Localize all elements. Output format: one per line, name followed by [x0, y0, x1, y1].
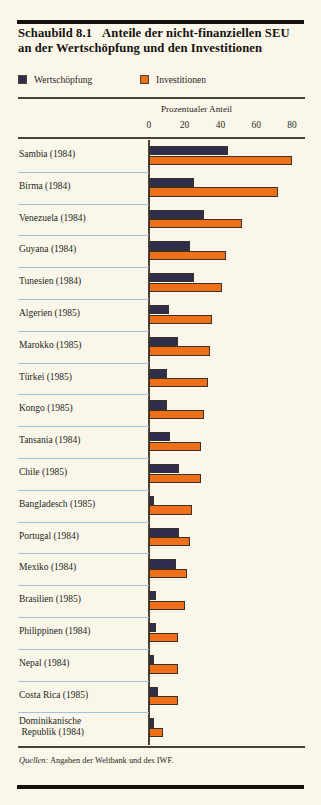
- figure-number: Schaubild 8.1: [18, 26, 92, 40]
- row-bars: [149, 687, 314, 708]
- row-bars: [149, 718, 314, 739]
- row-separator: [18, 553, 149, 554]
- legend-label-investitionen: Investitionen: [156, 74, 206, 85]
- row-label: Philippinen (1984): [19, 626, 145, 637]
- bar-investitionen: [149, 219, 242, 228]
- chart-row: Chile (1985): [0, 458, 321, 490]
- row-bars: [149, 369, 314, 390]
- row-separator: [18, 490, 149, 491]
- row-label: Dominikanische Republik (1984): [19, 716, 145, 738]
- bar-wertschoepfung: [149, 273, 194, 282]
- axis-tick-0: 0: [146, 120, 151, 130]
- row-separator: [18, 299, 149, 300]
- bar-wertschoepfung: [149, 210, 204, 219]
- row-bars: [149, 241, 314, 262]
- row-bars: [149, 432, 314, 453]
- bar-wertschoepfung: [149, 559, 176, 568]
- row-bars: [149, 559, 314, 580]
- row-separator: [18, 712, 149, 713]
- bar-investitionen: [149, 283, 222, 292]
- row-separator: [18, 267, 149, 268]
- bar-investitionen: [149, 442, 201, 451]
- footer-rule: [18, 746, 305, 748]
- chart-row: Sambia (1984): [0, 140, 321, 172]
- bar-wertschoepfung: [149, 718, 154, 727]
- axis-caption-text: Prozentualer Anteil: [161, 104, 232, 114]
- row-label: Türkei (1985): [19, 372, 145, 383]
- page-title: Schaubild 8.1Anteile der nicht-finanziel…: [18, 26, 305, 57]
- bar-wertschoepfung: [149, 241, 190, 250]
- row-separator: [18, 394, 149, 395]
- row-bars: [149, 400, 314, 421]
- chart-row: Portugal (1984): [0, 522, 321, 554]
- row-separator: [18, 617, 149, 618]
- bar-wertschoepfung: [149, 432, 170, 441]
- bar-investitionen: [149, 728, 163, 737]
- bottom-rule: [17, 785, 304, 789]
- bar-wertschoepfung: [149, 496, 154, 505]
- chart-row: Venezuela (1984): [0, 204, 321, 236]
- source-label: Quellen:: [19, 756, 48, 765]
- row-bars: [149, 146, 314, 167]
- bar-investitionen: [149, 474, 201, 483]
- row-label: Portugal (1984): [19, 531, 145, 542]
- bar-investitionen: [149, 410, 204, 419]
- plot-area: Sambia (1984)Birma (1984)Venezuela (1984…: [0, 140, 321, 745]
- legend-item-wertschoepfung: Wertschöpfung: [18, 74, 140, 85]
- row-bars: [149, 591, 314, 612]
- row-bars: [149, 528, 314, 549]
- chart-row: Algerien (1985): [0, 299, 321, 331]
- bar-investitionen: [149, 187, 278, 196]
- row-label: Marokko (1985): [19, 340, 145, 351]
- bar-wertschoepfung: [149, 369, 167, 378]
- bar-investitionen: [149, 346, 210, 355]
- row-separator: [18, 363, 149, 364]
- chart-row: Tunesien (1984): [0, 267, 321, 299]
- row-label: Venezuela (1984): [19, 213, 145, 224]
- row-separator: [18, 585, 149, 586]
- row-bars: [149, 496, 314, 517]
- legend-label-wertschoepfung: Wertschöpfung: [34, 74, 92, 85]
- bar-wertschoepfung: [149, 178, 194, 187]
- legend: Wertschöpfung Investitionen: [18, 74, 306, 85]
- bar-wertschoepfung: [149, 400, 167, 409]
- bar-wertschoepfung: [149, 687, 158, 696]
- axis-caption: Prozentualer Anteil: [0, 104, 321, 114]
- row-bars: [149, 337, 314, 358]
- bar-investitionen: [149, 569, 187, 578]
- bar-wertschoepfung: [149, 305, 169, 314]
- row-bars: [149, 464, 314, 485]
- legend-swatch-orange-icon: [140, 75, 149, 84]
- row-label: Tunesien (1984): [19, 276, 145, 287]
- row-separator: [18, 331, 149, 332]
- row-bars: [149, 655, 314, 676]
- row-label: Mexiko (1984): [19, 562, 145, 573]
- axis-tick-60: 60: [252, 120, 261, 130]
- row-separator: [18, 522, 149, 523]
- row-label: Kongo (1985): [19, 403, 145, 414]
- bar-wertschoepfung: [149, 464, 179, 473]
- row-separator: [18, 681, 149, 682]
- row-label: Nepal (1984): [19, 658, 145, 669]
- axis-tick-20: 20: [180, 120, 189, 130]
- chart-row: Birma (1984): [0, 172, 321, 204]
- source-text: Angaben der Weltbank und des IWF.: [48, 756, 173, 765]
- chart-row: Costa Rica (1985): [0, 681, 321, 713]
- bar-investitionen: [149, 315, 212, 324]
- source-note: Quellen: Angaben der Weltbank und des IW…: [19, 756, 174, 765]
- bar-wertschoepfung: [149, 528, 179, 537]
- bar-investitionen: [149, 537, 190, 546]
- row-bars: [149, 623, 314, 644]
- row-label: Guyana (1984): [19, 244, 145, 255]
- chart-row: Philippinen (1984): [0, 617, 321, 649]
- row-label: Sambia (1984): [19, 149, 145, 160]
- row-label: Birma (1984): [19, 181, 145, 192]
- top-rule: [17, 20, 304, 24]
- row-separator: [18, 235, 149, 236]
- row-label: Bangladesch (1985): [19, 499, 145, 510]
- legend-item-investitionen: Investitionen: [140, 74, 206, 85]
- bar-investitionen: [149, 251, 226, 260]
- axis-tick-80: 80: [287, 120, 296, 130]
- row-separator: [18, 426, 149, 427]
- row-label: Algerien (1985): [19, 308, 145, 319]
